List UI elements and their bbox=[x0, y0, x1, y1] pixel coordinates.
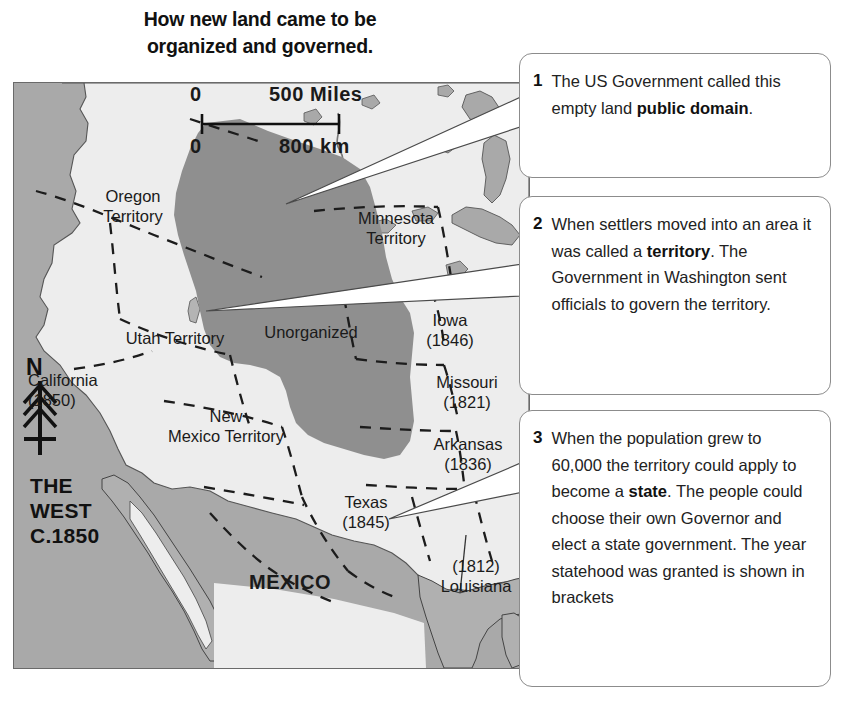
callout-3-text: When the population grew to 60,000 the t… bbox=[551, 425, 816, 611]
corner-line-2: WEST bbox=[30, 498, 100, 523]
map-corner-title: THE WEST C.1850 bbox=[30, 473, 100, 548]
map-container[interactable]: 0 500 Miles 0 800 km N THE WEST C.1850 O… bbox=[13, 82, 530, 669]
title-line-1: How new land came to be bbox=[0, 6, 520, 33]
callout-2-text-bold: territory bbox=[647, 242, 710, 260]
callout-box-2[interactable]: 2 When settlers moved into an area it wa… bbox=[519, 196, 831, 395]
compass-north-label: N bbox=[26, 355, 43, 379]
callout-1-text: The US Government called this empty land… bbox=[551, 68, 816, 121]
corner-line-3: C.1850 bbox=[30, 523, 100, 548]
title-line-2: organized and governed. bbox=[0, 33, 520, 60]
callout-3-text-bold: state bbox=[629, 482, 668, 500]
callout-3-text-after: . The people could choose their own Gove… bbox=[551, 482, 806, 606]
compass-rose: N bbox=[26, 355, 43, 379]
map-graphic bbox=[14, 83, 529, 668]
callout-2-text: When settlers moved into an area it was … bbox=[551, 211, 816, 317]
callout-1-number: 1 bbox=[533, 68, 542, 95]
callout-1-text-bold: public domain bbox=[637, 99, 749, 117]
corner-line-1: THE bbox=[30, 473, 100, 498]
callout-box-3[interactable]: 3 When the population grew to 60,000 the… bbox=[519, 410, 831, 687]
page-title: How new land came to be organized and go… bbox=[0, 6, 520, 60]
callout-3-number: 3 bbox=[533, 425, 542, 452]
callout-2-number: 2 bbox=[533, 211, 542, 238]
callout-box-1[interactable]: 1 The US Government called this empty la… bbox=[519, 53, 831, 178]
callout-1-text-after: . bbox=[749, 99, 754, 117]
